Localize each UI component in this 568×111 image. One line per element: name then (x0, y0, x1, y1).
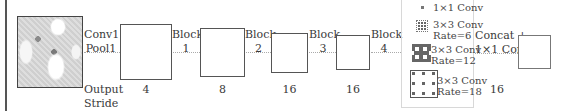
stage-label-line1: Block (245, 29, 272, 41)
aspp-branch-4-line2: Rate=18 (437, 86, 473, 97)
stage-label-line2: 1 (172, 43, 200, 55)
concat-line1: Concat + (475, 30, 519, 42)
feature-map-4 (336, 35, 370, 70)
kernel-1x1-icon (421, 6, 424, 9)
output-stride-line2: Stride (84, 98, 118, 110)
aspp-branch-4-label: 3×3 Conv Rate=18 (437, 75, 473, 97)
arrow-block2 (246, 52, 271, 53)
aspp-branch-2-line1: 3×3 Conv (433, 19, 471, 30)
output-stride-label: Output Stride (84, 84, 118, 110)
output-stride-value-aspp: 16 (485, 84, 509, 96)
aspp-branch-4-line1: 3×3 Conv (437, 75, 473, 86)
input-image (17, 16, 83, 88)
stage-label-line1: Conv1 + (84, 29, 118, 41)
output-stride-value-2: 8 (200, 84, 245, 96)
kernel-3x3-rate12-icon (412, 44, 431, 62)
arrow-conv1 (84, 52, 120, 53)
stage-label-line2: 2 (245, 43, 272, 55)
kernel-3x3-rate18-icon (410, 70, 438, 98)
arrow-block3 (309, 52, 336, 53)
feature-map-2 (200, 28, 245, 77)
stage-label-line1: Block (371, 29, 397, 41)
output-stride-value-3: 16 (271, 84, 308, 96)
output-stride-line1: Output (84, 84, 118, 96)
stage-label-line2: 3 (309, 43, 337, 55)
stage-label-line2: 4 (371, 43, 397, 55)
feature-map-3 (271, 33, 308, 73)
aspp-branch-1-label: 1×1 Conv (433, 2, 483, 13)
arrow-concat (475, 53, 518, 54)
aspp-branch-3-line2: Rate=12 (431, 55, 471, 66)
arrow-block1 (173, 52, 200, 53)
stage-label-line2: Pool1 (84, 43, 118, 55)
aspp-branch-2-line2: Rate=6 (433, 30, 471, 41)
concat-line2: 1×1 Conv (475, 44, 519, 56)
output-stride-value-1: 4 (120, 84, 172, 96)
output-stride-value-4: 16 (334, 84, 372, 96)
aspp-branch-3-line1: 3×3 Conv (431, 44, 471, 55)
output-feature-map (518, 35, 551, 69)
aspp-branch-3-label: 3×3 Conv Rate=12 (431, 44, 471, 66)
stage-label-line1: Block (172, 29, 200, 41)
arrow-block4 (371, 52, 401, 53)
kernel-3x3-rate6-icon (416, 20, 428, 32)
aspp-branch-2-label: 3×3 Conv Rate=6 (433, 19, 471, 41)
feature-map-1 (120, 24, 172, 80)
stage-label-line1: Block (309, 29, 337, 41)
left-border-line (5, 0, 7, 111)
